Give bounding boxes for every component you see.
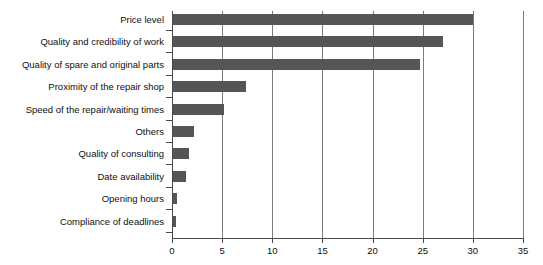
x-axis-tick-label: 20	[358, 245, 388, 257]
y-axis-tick	[166, 120, 172, 121]
y-axis-tick	[166, 142, 172, 143]
category-label: Opening hours	[102, 193, 164, 204]
x-axis-tick-label: 10	[257, 245, 287, 257]
category-label: Quality of spare and original parts	[22, 59, 164, 70]
x-axis-tick-25	[423, 238, 424, 243]
category-label: Quality and credibility of work	[40, 36, 164, 47]
bar	[172, 104, 224, 115]
category-label: Speed of the repair/waiting times	[26, 104, 164, 115]
x-axis-tick-5	[222, 238, 223, 243]
y-axis-tick	[166, 75, 172, 76]
y-axis-tick	[166, 97, 172, 98]
x-axis-tick-label: 15	[307, 245, 337, 257]
x-axis-tick-15	[322, 238, 323, 243]
category-label: Others	[135, 126, 164, 137]
bar-chart: Price levelQuality and credibility of wo…	[0, 0, 543, 265]
bar	[172, 81, 246, 92]
y-axis-tick	[166, 30, 172, 31]
bar	[172, 126, 194, 137]
x-axis-tick-35	[523, 238, 524, 243]
y-axis-tick	[166, 232, 172, 233]
x-axis-tick-label: 5	[207, 245, 237, 257]
y-axis-line	[172, 11, 173, 239]
x-axis-line	[172, 238, 524, 239]
category-label: Proximity of the repair shop	[48, 81, 164, 92]
category-label: Quality of consulting	[78, 148, 164, 159]
x-axis-tick-0	[172, 238, 173, 243]
y-axis-tick	[166, 187, 172, 188]
category-axis-labels: Price levelQuality and credibility of wo…	[0, 11, 168, 238]
bar	[172, 59, 420, 70]
x-axis-tick-label: 35	[508, 245, 538, 257]
category-label: Date availability	[97, 171, 164, 182]
x-axis-tick-30	[473, 238, 474, 243]
x-axis-tick-10	[272, 238, 273, 243]
x-axis-tick-label: 25	[408, 245, 438, 257]
gridline-30	[473, 11, 474, 238]
y-axis-tick	[166, 164, 172, 165]
bar	[172, 36, 443, 47]
category-label: Compliance of deadlines	[60, 216, 164, 227]
bar	[172, 14, 473, 25]
y-axis-tick	[166, 52, 172, 53]
x-axis-tick-label: 30	[458, 245, 488, 257]
bar	[172, 171, 186, 182]
x-axis-tick-20	[373, 238, 374, 243]
bar	[172, 148, 189, 159]
gridline-35	[523, 11, 524, 238]
y-axis-tick	[166, 209, 172, 210]
category-label: Price level	[120, 14, 164, 25]
plot-area	[172, 11, 523, 238]
x-axis-tick-label: 0	[157, 245, 187, 257]
